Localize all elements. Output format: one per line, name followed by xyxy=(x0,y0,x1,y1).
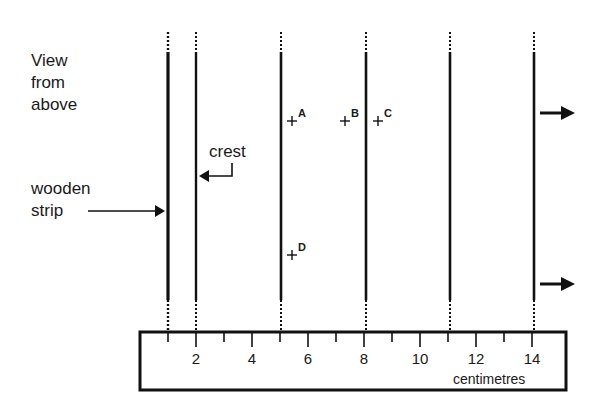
wave-crest-lines xyxy=(168,32,534,330)
point-d-label: D xyxy=(298,241,306,253)
view-label-line-2: from xyxy=(31,72,77,94)
wooden-strip-label: wooden strip xyxy=(31,178,91,222)
point-a-label: A xyxy=(298,107,306,119)
point-markers xyxy=(287,116,383,260)
wooden-strip-line-1: wooden xyxy=(31,178,91,200)
wooden-strip-arrow-icon xyxy=(88,205,165,217)
point-a-marker xyxy=(287,116,297,126)
view-from-above-label: View from above xyxy=(31,50,77,116)
crest-label: crest xyxy=(209,141,246,163)
ruler-units-label: centimetres xyxy=(453,371,525,387)
ruler-tick-4: 4 xyxy=(248,350,256,367)
point-b-label: B xyxy=(351,107,359,119)
point-d-marker xyxy=(287,250,297,260)
wave-direction-arrow-bottom-icon xyxy=(540,277,575,291)
ruler-tick-12: 12 xyxy=(468,350,485,367)
view-label-line-3: above xyxy=(31,94,77,116)
point-c-label: C xyxy=(384,107,392,119)
ruler-tick-8: 8 xyxy=(360,350,368,367)
ruler-tick-2: 2 xyxy=(192,350,200,367)
ruler-tick-10: 10 xyxy=(412,350,429,367)
point-b-marker xyxy=(340,116,350,126)
point-c-marker xyxy=(373,116,383,126)
ruler-tick-6: 6 xyxy=(304,350,312,367)
wave-direction-arrow-top-icon xyxy=(540,106,575,120)
view-label-line-1: View xyxy=(31,50,77,72)
wooden-strip-line-2: strip xyxy=(31,200,91,222)
crest-arrow-icon xyxy=(199,163,232,182)
ruler-tick-14: 14 xyxy=(524,350,541,367)
